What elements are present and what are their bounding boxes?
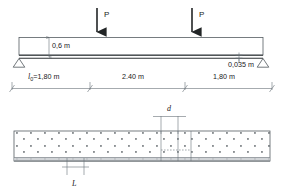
span-middle-label: 2.40 m: [122, 72, 144, 81]
span-left-label: l0=1,80 m: [28, 72, 59, 82]
beam-depth-label: 0,6 m: [52, 41, 70, 50]
span-right-label: 1,80 m: [213, 72, 235, 81]
point-load-left-label: P: [104, 10, 109, 19]
dimension-d-label: d: [167, 104, 172, 113]
point-load-right-label: P: [199, 10, 204, 19]
figure-canvas: P P 0,6 m 0,035 m l0=1,80 m 2.40 m 1,80 …: [0, 0, 285, 191]
span-left-value: =1,80 m: [33, 72, 59, 81]
bottom-layer-label: 0,035 m: [228, 60, 254, 69]
dimension-L-label: L: [71, 179, 77, 188]
